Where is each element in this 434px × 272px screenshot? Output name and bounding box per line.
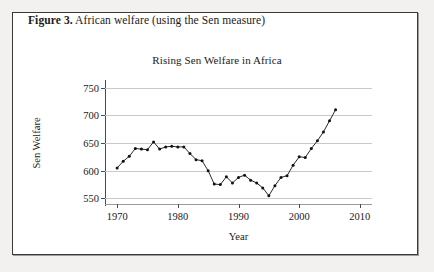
data-point (328, 119, 331, 122)
data-point (243, 174, 246, 177)
chart-title: Rising Sen Welfare in Africa (0, 54, 434, 66)
x-tick-mark (239, 204, 240, 208)
data-point (164, 145, 167, 148)
x-tick-mark (178, 204, 179, 208)
data-point (128, 155, 131, 158)
data-point (231, 181, 234, 184)
data-point (134, 147, 137, 150)
data-point (213, 183, 216, 186)
data-point (225, 175, 228, 178)
data-point (237, 176, 240, 179)
data-point (201, 159, 204, 162)
data-point (273, 184, 276, 187)
y-tick-label: 750 (83, 82, 99, 93)
data-point (207, 169, 210, 172)
data-point (140, 148, 143, 151)
welfare-series (105, 82, 372, 204)
data-point (255, 181, 258, 184)
data-point (304, 156, 307, 159)
y-axis-title: Sen Welfare (31, 117, 42, 168)
figure-container: Figure 3. African welfare (using the Sen… (0, 0, 434, 272)
data-point (195, 158, 198, 161)
data-point (298, 155, 301, 158)
data-point (316, 139, 319, 142)
x-axis-title: Year (105, 231, 372, 242)
data-point (310, 147, 313, 150)
data-point (279, 176, 282, 179)
x-tick-mark (117, 204, 118, 208)
x-tick-label: 2000 (289, 211, 310, 222)
data-point (188, 152, 191, 155)
y-tick-label: 600 (83, 165, 99, 176)
data-point (286, 174, 289, 177)
data-point (170, 145, 173, 148)
data-point (182, 145, 185, 148)
plot-area: 550600650700750 19701980199020002010 (105, 82, 372, 204)
data-point (219, 183, 222, 186)
x-tick-label: 1980 (167, 211, 188, 222)
data-point (158, 148, 161, 151)
x-tick-label: 1990 (228, 211, 249, 222)
data-point (146, 148, 149, 151)
x-tick-label: 2010 (349, 211, 370, 222)
data-point (267, 194, 270, 197)
data-point (176, 145, 179, 148)
data-point (116, 166, 119, 169)
x-tick-mark (299, 204, 300, 208)
chart: Rising Sen Welfare in Africa Sen Welfare… (0, 0, 434, 272)
data-point (249, 179, 252, 182)
series-line (117, 110, 335, 196)
y-tick-label: 650 (83, 138, 99, 149)
data-point (334, 108, 337, 111)
data-point (292, 164, 295, 167)
y-tick-label: 700 (83, 110, 99, 121)
series-points (116, 108, 337, 197)
data-point (322, 130, 325, 133)
data-point (122, 160, 125, 163)
data-point (261, 186, 264, 189)
data-point (152, 140, 155, 143)
y-tick-label: 550 (83, 193, 99, 204)
x-tick-mark (360, 204, 361, 208)
x-tick-label: 1970 (107, 211, 128, 222)
